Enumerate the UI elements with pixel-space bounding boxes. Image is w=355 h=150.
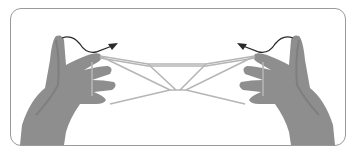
arrow-left-icon — [62, 37, 118, 52]
string-figure-illustration — [0, 0, 355, 150]
string-figure — [92, 56, 263, 104]
arrow-right-icon — [237, 37, 293, 52]
right-hand — [239, 36, 335, 146]
left-hand — [20, 36, 116, 146]
